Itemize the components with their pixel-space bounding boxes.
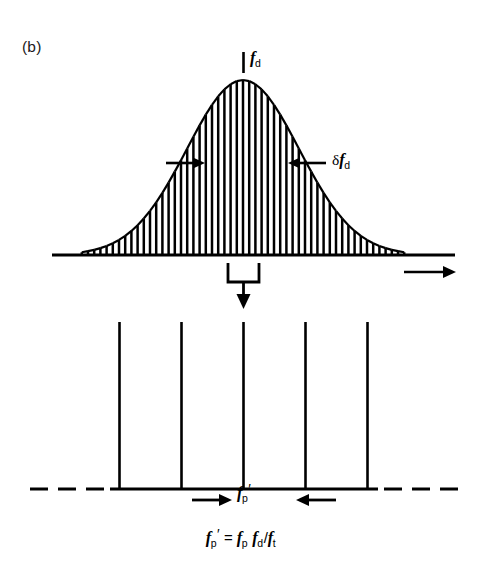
- frequency-axis-arrow-icon: [404, 266, 456, 278]
- envelope-segment: [392, 250, 398, 251]
- pulse-spacing-label: fp′: [237, 483, 251, 503]
- eq-lhs-subscript: p: [211, 537, 217, 549]
- pulse-spacing-subscript: p: [242, 492, 248, 504]
- connector-bracket: [228, 263, 259, 282]
- envelope-segment: [243, 80, 249, 81]
- eq-term2-subscript: d: [257, 537, 263, 549]
- peak-frequency-label: fd: [250, 48, 261, 68]
- eq-lhs-prime: ′: [217, 526, 220, 542]
- caption-equation: fp′ = fp fd/ft: [0, 528, 482, 548]
- panel-connector-group: [228, 263, 259, 309]
- eq-term1-subscript: p: [242, 537, 248, 549]
- connector-down-arrow-icon: [237, 282, 251, 309]
- panel-label-b: (b): [22, 38, 42, 56]
- eq-term3-subscript: t: [273, 537, 276, 549]
- linewidth-label: δfd: [332, 150, 351, 170]
- peak-frequency-subscript: d: [255, 57, 261, 69]
- upper-spectrum-group: [52, 52, 456, 278]
- linewidth-subscript: d: [344, 159, 350, 171]
- pulse-spacing-left-arrow-icon: [192, 494, 232, 506]
- envelope-segment: [398, 251, 404, 252]
- pulse-spacing-right-arrow-icon: [296, 494, 336, 506]
- figure-panel-b: (b) fd δfd fp′ fp′ = fp fd/ft: [0, 0, 482, 585]
- lower-mode-comb-group: [30, 322, 458, 506]
- spectral-comb-lines: [82, 80, 404, 254]
- pulse-spacing-prime: ′: [248, 481, 251, 497]
- mode-comb-lines: [120, 322, 368, 489]
- eq-equals-sign: =: [224, 529, 233, 546]
